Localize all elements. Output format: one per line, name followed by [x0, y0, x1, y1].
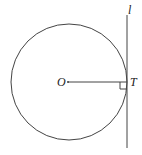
- label-line-l: l: [128, 4, 131, 16]
- label-point-t: T: [130, 76, 137, 88]
- right-angle-marker: [120, 82, 127, 89]
- center-point: [67, 81, 69, 83]
- diagram-canvas: [0, 0, 142, 155]
- label-center-o: O: [57, 76, 66, 88]
- tangent-diagram: O T l: [0, 0, 142, 155]
